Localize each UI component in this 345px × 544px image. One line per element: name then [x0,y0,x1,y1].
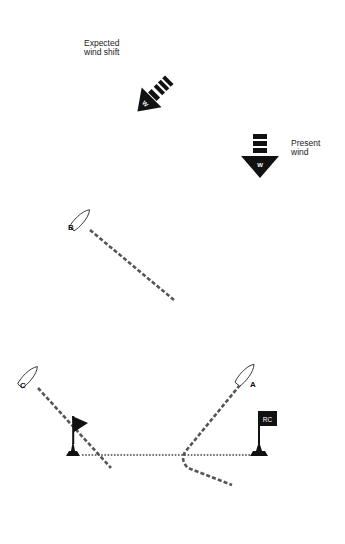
present-wind-arrow-icon: W [241,134,279,178]
committee-boat-rc-mark-icon: RC [250,411,277,456]
wind-glyph: W [257,162,263,168]
present-wind-label: Present wind [291,139,320,157]
boat-a-track [183,385,240,485]
boat-c-label: C [20,381,26,390]
boat-b-label: B [68,223,74,232]
expected-wind-shift-arrow-icon: W [128,70,180,122]
boat-a-label: A [250,380,256,389]
sailing-start-diagram: W W RC [0,0,345,544]
expected-wind-shift-label: Expected wind shift [84,39,119,57]
boat-b-track [90,230,174,300]
rc-flag-text: RC [263,416,273,423]
